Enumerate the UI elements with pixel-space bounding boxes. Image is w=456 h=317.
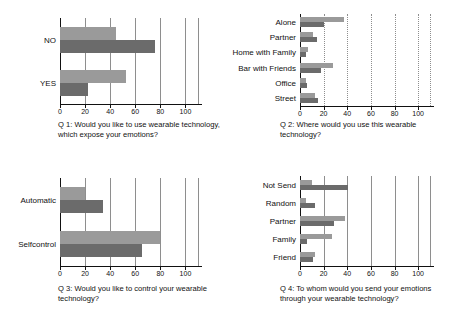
chart-caption-q1: Q 1: Would you like to use wearable tech… [58,120,222,140]
chart-panel-q2: 020406080100AlonePartnerHome with Family… [228,0,456,160]
bar [60,231,160,244]
category-label: Home with Family [228,48,296,57]
x-tick-label: 40 [106,108,114,115]
category-label: Automatic [0,196,56,205]
category-label: Partner [228,217,296,226]
bar [60,83,88,96]
category-label: Street [228,94,296,103]
plot-area-q2: 020406080100AlonePartnerHome with Family… [300,14,430,106]
x-axis-line [60,104,202,105]
x-tick-label: 60 [131,108,139,115]
gridline [135,18,136,104]
x-tick-label: 60 [367,270,375,277]
category-label: Bar with Friends [228,63,296,72]
gridline [198,18,199,104]
chart-panel-q3: 020406080100AutomaticSelfcontrolQ 3: Wou… [0,160,228,317]
bar [300,203,315,208]
x-tick-label: 20 [320,110,328,117]
gridline [324,14,325,106]
category-label: Random [228,199,296,208]
gridline [160,178,161,266]
bar [300,257,313,262]
gridline [395,176,396,266]
x-tick-label: 80 [391,110,399,117]
gridline [430,14,431,106]
bar [300,37,317,42]
bar [300,185,348,190]
category-label: NO [0,35,56,44]
gridline [418,176,419,266]
chart-grid: 020406080100NOYESQ 1: Would you like to … [0,0,456,317]
gridline [395,14,396,106]
x-tick-label: 100 [180,108,192,115]
gridline [160,18,161,104]
plot-area-q1: 020406080100NOYES [60,18,198,104]
x-tick-label: 40 [343,270,351,277]
x-tick-label: 60 [131,270,139,277]
chart-panel-q4: 020406080100Not SendRandomPartnerFamilyF… [228,160,456,317]
x-tick-label: 40 [106,270,114,277]
chart-caption-q2: Q 2: Where would you use this wearable t… [280,120,450,140]
category-label: Selfcontrol [0,240,56,249]
gridline [371,14,372,106]
chart-caption-q3: Q 3: Would you like to control your wear… [58,284,222,304]
x-tick-label: 40 [343,110,351,117]
x-tick-label: 100 [412,110,424,117]
x-tick-label: 0 [298,110,302,117]
category-label: Office [228,79,296,88]
x-tick-label: 100 [412,270,424,277]
x-tick-label: 100 [180,270,192,277]
x-axis-line [60,266,202,267]
gridline [198,178,199,266]
bar [300,221,334,226]
category-label: Partner [228,33,296,42]
gridline [418,14,419,106]
bar [300,52,306,57]
bar [300,22,324,27]
x-tick-label: 20 [81,270,89,277]
x-tick-label: 0 [58,270,62,277]
chart-caption-q4: Q 4: To whom would you send your emotion… [280,284,450,304]
x-axis-line [300,266,434,267]
bar [60,200,103,213]
x-tick-label: 0 [58,108,62,115]
gridline [185,18,186,104]
x-tick-label: 80 [156,108,164,115]
gridline [430,176,431,266]
category-label: YES [0,78,56,87]
category-label: Alone [228,17,296,26]
category-label: Friend [228,253,296,262]
plot-area-q4: 020406080100Not SendRandomPartnerFamilyF… [300,176,430,266]
bar [60,40,155,53]
bar [60,27,116,40]
bar [300,68,321,73]
gridline [185,178,186,266]
gridline [347,14,348,106]
gridline [371,176,372,266]
x-tick-label: 20 [81,108,89,115]
bar [60,244,142,257]
bar [300,239,307,244]
chart-panel-q1: 020406080100NOYESQ 1: Would you like to … [0,0,228,160]
bar [60,187,85,200]
x-tick-label: 80 [156,270,164,277]
category-label: Not Send [228,181,296,190]
x-tick-label: 80 [391,270,399,277]
plot-area-q3: 020406080100AutomaticSelfcontrol [60,178,198,266]
bar [300,98,318,103]
bar [300,83,307,88]
category-label: Family [228,235,296,244]
x-tick-label: 0 [298,270,302,277]
x-tick-label: 60 [367,110,375,117]
y-axis-line [300,14,301,106]
bar [60,70,126,83]
x-tick-label: 20 [320,270,328,277]
x-axis-line [300,106,434,107]
